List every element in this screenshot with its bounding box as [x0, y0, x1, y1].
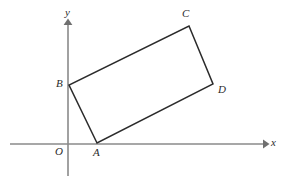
- rectangle-shape: [69, 26, 213, 143]
- vertex-label-d: D: [218, 84, 226, 95]
- vertex-label-b: B: [56, 78, 63, 89]
- origin-label: O: [55, 146, 63, 157]
- figure-canvas: [0, 0, 282, 180]
- rectangle-outline: [69, 26, 213, 143]
- vertex-label-a: A: [93, 147, 100, 158]
- x-axis-arrowhead: [263, 140, 270, 149]
- y-axis-arrowhead: [64, 19, 73, 26]
- x-axis-label: x: [271, 137, 276, 148]
- y-axis: [64, 19, 73, 177]
- geometry-figure: x y O A B C D: [0, 0, 282, 180]
- vertex-label-c: C: [182, 8, 189, 19]
- y-axis-label: y: [65, 7, 70, 18]
- x-axis: [10, 140, 270, 149]
